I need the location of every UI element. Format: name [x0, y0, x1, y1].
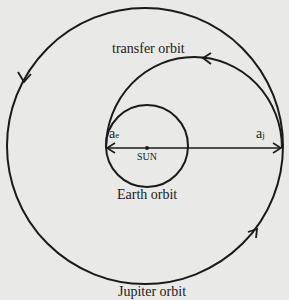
a-j-subscript: j: [262, 130, 265, 140]
a-e-subscript: e: [115, 130, 119, 140]
sun-label: SUN: [137, 152, 157, 162]
sun-dot: [145, 146, 149, 150]
a-j-label: aj: [256, 127, 265, 141]
a-e-label: ae: [109, 127, 119, 141]
jupiter-orbit-label: Jupiter orbit: [118, 285, 186, 299]
transfer-orbit-label: transfer orbit: [112, 42, 185, 56]
earth-orbit-label: Earth orbit: [117, 188, 177, 202]
